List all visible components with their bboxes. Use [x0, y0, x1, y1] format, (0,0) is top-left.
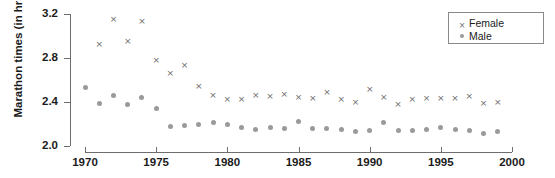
x-tick-label: 1980 [202, 156, 252, 168]
data-point-female: × [109, 15, 118, 24]
x-tick-label: 1975 [131, 156, 181, 168]
data-point-female: × [422, 94, 431, 103]
x-tick-label: 1985 [274, 156, 324, 168]
data-point-female: × [194, 82, 203, 91]
data-point-female: × [209, 91, 218, 100]
data-point-female: × [95, 40, 104, 49]
x-tick-label: 2000 [487, 156, 537, 168]
data-point-male [467, 128, 472, 133]
x-tick-label: 1990 [345, 156, 395, 168]
x-tick-mark [370, 147, 371, 152]
data-point-male [211, 120, 216, 125]
data-point-male [310, 126, 315, 131]
data-point-male [282, 126, 287, 131]
x-tick-mark [227, 147, 228, 152]
data-point-female: × [280, 90, 289, 99]
legend-label-female: Female [469, 17, 504, 29]
data-point-female: × [479, 99, 488, 108]
data-point-female: × [152, 56, 161, 65]
data-point-male [83, 85, 88, 90]
data-point-male [324, 126, 329, 131]
y-tick-label: 2.4 [14, 96, 58, 107]
y-tick-label: 3.2 [14, 8, 58, 19]
data-point-male [339, 127, 344, 132]
x-tick-label: 1995 [416, 156, 466, 168]
data-point-male [424, 127, 429, 132]
y-tick-label: 2.8 [14, 52, 58, 63]
data-point-male [139, 95, 144, 100]
data-point-male [495, 129, 500, 134]
data-point-male [296, 119, 301, 124]
data-point-male [268, 125, 273, 130]
data-point-male [367, 128, 372, 133]
data-point-female: × [166, 69, 175, 78]
dot-marker-icon [455, 27, 469, 45]
x-tick-label: 1970 [60, 156, 110, 168]
data-point-male [168, 124, 173, 129]
data-point-female: × [251, 91, 260, 100]
data-point-female: × [308, 94, 317, 103]
data-point-male [196, 122, 201, 127]
data-point-female: × [294, 93, 303, 102]
data-point-male [438, 125, 443, 130]
marathon-times-scatter-chart: Marathon times (in hrs) 2.02.42.83.2 197… [0, 0, 555, 178]
data-point-male [453, 127, 458, 132]
data-point-female: × [266, 92, 275, 101]
y-axis-line [70, 14, 71, 146]
data-point-male [239, 125, 244, 130]
data-point-female: × [351, 98, 360, 107]
data-point-female: × [337, 95, 346, 104]
x-tick-mark [512, 147, 513, 152]
chart-legend: × Female Male [448, 12, 544, 44]
data-point-male [97, 101, 102, 106]
data-point-female: × [180, 61, 189, 70]
data-point-male [353, 129, 358, 134]
y-tick-mark [64, 102, 70, 103]
data-point-male [125, 102, 130, 107]
x-tick-mark [299, 147, 300, 152]
data-point-female: × [322, 88, 331, 97]
data-point-male [381, 120, 386, 125]
y-tick-mark [64, 146, 70, 147]
data-point-female: × [465, 92, 474, 101]
data-point-female: × [365, 85, 374, 94]
data-point-female: × [394, 100, 403, 109]
x-axis-line [85, 152, 512, 153]
data-point-female: × [493, 98, 502, 107]
y-tick-label: 2.0 [14, 140, 58, 151]
data-point-female: × [237, 95, 246, 104]
data-point-female: × [379, 93, 388, 102]
x-tick-mark [441, 147, 442, 152]
data-point-male [396, 128, 401, 133]
data-point-female: × [408, 95, 417, 104]
data-point-female: × [451, 94, 460, 103]
legend-label-male: Male [469, 30, 492, 42]
data-point-female: × [137, 17, 146, 26]
y-tick-mark [64, 58, 70, 59]
y-tick-mark [64, 14, 70, 15]
data-point-male [253, 127, 258, 132]
data-point-female: × [223, 95, 232, 104]
data-point-male [154, 106, 159, 111]
data-point-female: × [436, 94, 445, 103]
legend-entry-male: Male [455, 29, 543, 42]
data-point-female: × [123, 37, 132, 46]
x-tick-mark [156, 147, 157, 152]
x-tick-mark [85, 147, 86, 152]
data-point-male [111, 93, 116, 98]
data-point-male [410, 128, 415, 133]
data-point-male [225, 122, 230, 127]
data-point-male [481, 131, 486, 136]
data-point-male [182, 123, 187, 128]
